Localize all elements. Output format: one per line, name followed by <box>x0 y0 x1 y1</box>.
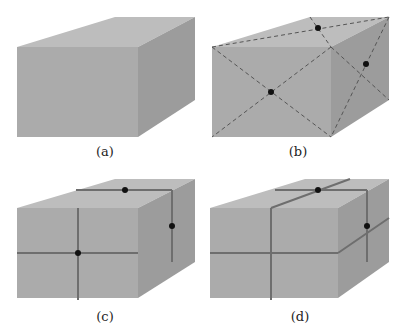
panel-a-label: (a) <box>96 144 114 159</box>
panel-c <box>17 179 195 300</box>
panel-b-label: (b) <box>289 144 307 159</box>
panel-b <box>212 17 389 137</box>
panel-d-label: (d) <box>291 309 309 324</box>
figure-canvas: (a) (b) (c) (d) <box>0 0 408 329</box>
top-centre-dot <box>122 187 128 193</box>
panel-d <box>210 179 389 300</box>
side-centre-dot <box>364 223 370 229</box>
front-centre-dot <box>75 250 81 256</box>
panel-c-label: (c) <box>96 309 113 324</box>
side-centre-dot <box>363 61 369 67</box>
side-centre-dot <box>169 223 175 229</box>
top-centre-dot <box>315 25 321 31</box>
front-centre-dot <box>268 89 274 95</box>
top-centre-dot <box>315 187 321 193</box>
panel-a <box>17 17 195 137</box>
box-a-front-face <box>17 47 138 137</box>
